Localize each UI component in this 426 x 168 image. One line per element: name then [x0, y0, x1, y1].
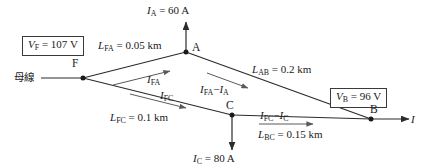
node-dot-a	[184, 50, 189, 55]
branch-arrow-ifa	[113, 71, 170, 85]
conductor-fa	[83, 52, 186, 78]
node-label-a: A	[192, 42, 200, 54]
voltage-vf-value: = 107 V	[39, 38, 78, 50]
node-label-c: C	[226, 100, 234, 112]
length-label-lfc: LFC = 0.1 km	[110, 112, 168, 125]
voltage-vb-value: = 96 V	[348, 90, 381, 102]
node-label-b: B	[370, 104, 378, 116]
length-label-lbc: LBC = 0.15 km	[258, 129, 322, 142]
diagram-canvas: 母線 VF = 107 V VB = 96 V F A C B IA = 60 …	[0, 0, 426, 168]
branch-current-label-ifc-minus-ic: IFC−IC	[260, 110, 289, 123]
voltage-vf-symbol: V	[28, 38, 35, 50]
branch-current-label-ifc: IFC	[160, 90, 173, 103]
node-label-f: F	[72, 58, 78, 70]
branch-current-label-ifa-minus-ia: IFA−IA	[200, 84, 229, 97]
length-label-lfa: LFA = 0.05 km	[98, 40, 161, 53]
bus-label: 母線	[14, 72, 34, 83]
node-dot-b	[369, 117, 374, 122]
voltage-box-vb: VB = 96 V	[330, 88, 387, 108]
length-label-lab: LAB = 0.2 km	[252, 64, 311, 77]
voltage-box-vf: VF = 107 V	[22, 36, 84, 56]
voltage-vb-symbol: V	[336, 90, 343, 102]
branch-current-label-ifa: IFA	[147, 74, 160, 87]
load-current-label-ic: IC = 80 A	[193, 153, 235, 166]
source-current-label-i: I	[411, 114, 415, 125]
node-dot-c	[230, 113, 235, 118]
conductor-cb	[232, 115, 371, 119]
node-dot-f	[81, 76, 86, 81]
load-current-label-ia: IA = 60 A	[147, 5, 189, 18]
